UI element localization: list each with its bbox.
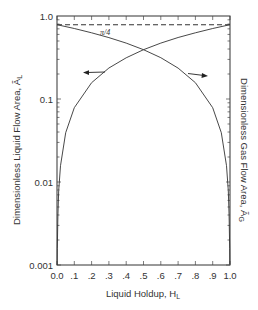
x-tick-label: .9 xyxy=(209,270,217,281)
x-axis-title: Liquid Holdup, HL xyxy=(106,288,180,300)
x-tick-label: 0.0 xyxy=(50,270,63,281)
pi-over-4-label: π/4 xyxy=(100,28,110,37)
y-tick-label: 0.1 xyxy=(40,94,53,105)
y-left-axis-title: Dimensionless Liquid Flow Area, ÃL xyxy=(11,75,23,225)
plot-frame xyxy=(57,16,230,265)
y-tick-label: 0.001 xyxy=(29,260,53,271)
y-right-axis-title: Dimensionless Gas Flow Area, ÃG xyxy=(238,78,250,222)
x-tick-label: .2 xyxy=(88,270,96,281)
x-tick-label: .1 xyxy=(70,270,78,281)
y-tick-labels: 1.00.10.010.001 xyxy=(29,11,53,271)
chart: π/4 1.00.10.010.001 0.0.1.2.3.4.5.6.7.8.… xyxy=(0,0,258,310)
x-tick-label: .3 xyxy=(105,270,113,281)
x-tick-label: .4 xyxy=(122,270,130,281)
x-tick-label: .8 xyxy=(191,270,199,281)
x-tick-label: 1.0 xyxy=(223,270,236,281)
x-tick-label: .7 xyxy=(174,270,182,281)
x-tick-label: .5 xyxy=(140,270,148,281)
gas-area-curve xyxy=(57,25,230,265)
x-axis-ticks xyxy=(57,16,230,265)
y-axis-ticks xyxy=(57,20,230,265)
y-tick-label: 1.0 xyxy=(40,11,53,22)
x-tick-labels: 0.0.1.2.3.4.5.6.7.8.91.0 xyxy=(50,270,236,281)
liquid-area-curve xyxy=(57,25,230,265)
right-axis-arrow xyxy=(188,73,208,78)
y-tick-label: 0.01 xyxy=(35,177,54,188)
x-tick-label: .6 xyxy=(157,270,165,281)
